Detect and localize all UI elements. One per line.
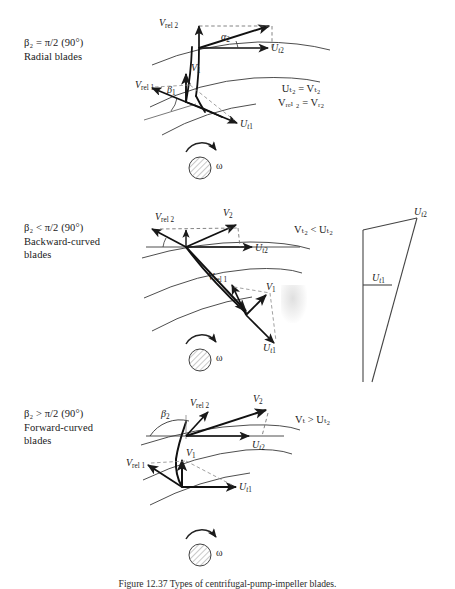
side-velocity-triangle [363,218,417,382]
label-v2-3: V2 [253,393,263,404]
label-ut1-2: Ut1 [263,342,276,353]
panel-backward-curved: β₂ < π/2 (90°) Backward-curved blades Vₜ… [0,185,455,375]
side-triangle-label-ut2: Ut2 [414,206,427,217]
exit-triangle-construction-2 [160,228,240,247]
label-ut2-3: Ut2 [252,439,265,450]
alpha2-angle-arc [236,41,238,48]
impeller-shroud-arcs-2 [142,242,310,331]
figure-caption: Figure 12.37 Types of centrifugal-pump-i… [0,578,455,589]
label-v2-2: V2 [223,207,233,218]
vector-vrel2-2 [152,229,186,247]
inlet-triangle-construction-3 [151,461,232,485]
label-omega-2: ω [216,352,223,363]
label-ut2: Ut2 [271,42,284,53]
label-v1: V1 [191,62,201,73]
forward-curved-blade-profiles [176,422,186,487]
vector-v2 [199,26,269,48]
vector-v1-2 [246,295,266,315]
panel-radial: β₂ = π/2 (90°) Radial blades Uₜ₂ = Vₜ₂ V… [0,0,455,185]
rotation-arrow-icon [186,143,216,152]
label-vrel2-3: Vrel 2 [190,397,209,408]
label-vrel1-2: Vrel 1 [208,271,227,282]
label-vrel2-2: Vrel 2 [155,211,174,222]
label-ut1: Ut1 [240,118,253,129]
label-v1-3: V1 [186,447,196,458]
label-omega-1: ω [216,160,223,171]
label-omega-3: ω [216,547,223,558]
label-vrel2: Vrel 2 [159,17,178,28]
impeller-shroud-arcs-3 [141,425,300,505]
side-triangle-label-ut1: Ut1 [372,272,385,283]
rotation-arrow-icon-2 [186,335,216,344]
rotation-arrow-icon-3 [186,530,216,539]
label-vrel1-3: Vrel 1 [126,457,145,468]
panel-radial-diagram [0,0,455,185]
vector-ut1-2 [246,315,274,343]
figure-page: β₂ = π/2 (90°) Radial blades Uₜ₂ = Vₜ₂ V… [0,0,455,589]
beta1-angle-arc [171,98,177,111]
panel-forward-diagram [0,375,455,565]
rotation-symbol-group [186,143,216,179]
beta2-angle-arc-2 [163,238,166,247]
label-ut1-3: Ut1 [239,481,252,492]
label-v1-2: V1 [266,281,276,292]
label-vrel1: Vrel 1 [135,79,154,90]
panel-forward-curved: β₂ > π/2 (90°) Forward-curved blades Vₜ … [0,375,455,565]
label-alpha2: α2 [221,31,230,42]
rotation-symbol-group-2 [186,335,216,371]
label-beta2-3: β2 [161,408,170,419]
label-beta1: β1 [167,84,176,95]
inlet-triangle-construction-2 [234,287,276,341]
label-ut2-2: Ut2 [255,242,268,253]
rotation-symbol-group-3 [186,530,216,566]
